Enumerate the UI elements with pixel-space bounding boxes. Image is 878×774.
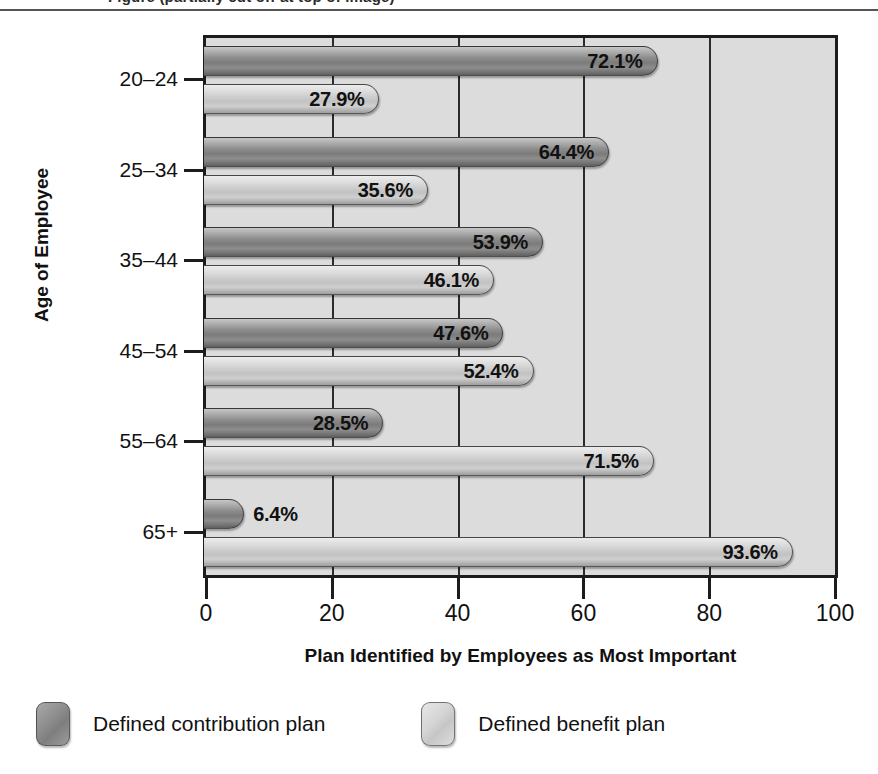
- legend-entry-1[interactable]: Defined contribution plan: [36, 702, 325, 746]
- bar-value-label: 72.1%: [587, 50, 642, 73]
- x-axis-label: Plan Identified by Employees as Most Imp…: [203, 645, 838, 667]
- y-tick-mark: [184, 259, 203, 262]
- y-tick-label-65+: 65+: [142, 520, 178, 544]
- bar-value-label: 64.4%: [539, 140, 594, 163]
- legend-label: Defined benefit plan: [478, 712, 665, 736]
- y-tick-mark: [184, 440, 203, 443]
- bar-4554-series1: 47.6%: [204, 318, 503, 348]
- x-tick-mark-20: [331, 578, 334, 599]
- gridline-20: [332, 38, 334, 575]
- bar-value-label: 47.6%: [433, 321, 488, 344]
- y-tick-mark: [184, 169, 203, 172]
- bar-2024-series1: 72.1%: [204, 46, 658, 76]
- bar-value-label: 71.5%: [584, 450, 639, 473]
- bar-3544-series2: 46.1%: [204, 265, 494, 295]
- bar-value-label: 35.6%: [358, 178, 413, 201]
- bar-value-label: 52.4%: [463, 359, 518, 382]
- y-axis-tick-labels: 20–2425–3435–4445–5455–6465+: [0, 0, 178, 774]
- chart-figure: Figure (partially cut off at top of imag…: [0, 0, 878, 774]
- x-tick-mark-40: [457, 578, 460, 599]
- x-tick-mark-80: [708, 578, 711, 599]
- gridline-80: [709, 38, 711, 575]
- bar-2024-series2: 27.9%: [204, 84, 379, 114]
- x-tick-label-60: 60: [571, 600, 597, 627]
- bar-65+-series2: 93.6%: [204, 537, 793, 567]
- legend-entry-2[interactable]: Defined benefit plan: [421, 702, 665, 746]
- bar-65+-series1: 6.4%: [204, 499, 244, 529]
- x-tick-label-40: 40: [445, 600, 471, 627]
- bar-2534-series1: 64.4%: [204, 137, 609, 167]
- bar-value-label: 6.4%: [253, 502, 297, 525]
- x-tick-label-0: 0: [200, 600, 213, 627]
- legend-label: Defined contribution plan: [93, 712, 325, 736]
- bar-value-label: 46.1%: [424, 269, 479, 292]
- y-tick-label-3544: 35–44: [120, 248, 178, 272]
- y-tick-mark: [184, 531, 203, 534]
- x-tick-mark-60: [582, 578, 585, 599]
- bar-5564-series1: 28.5%: [204, 408, 383, 438]
- bar-5564-series2: 71.5%: [204, 446, 654, 476]
- x-tick-mark-100: [834, 578, 837, 599]
- legend-swatch-icon-dark: [36, 702, 70, 746]
- y-tick-mark: [184, 350, 203, 353]
- x-tick-label-100: 100: [816, 600, 854, 627]
- y-tick-label-5564: 55–64: [120, 429, 178, 453]
- plot-area: 72.1%27.9%64.4%35.6%53.9%46.1%47.6%52.4%…: [203, 35, 838, 578]
- bar-2534-series2: 35.6%: [204, 175, 428, 205]
- bar-value-label: 53.9%: [473, 231, 528, 254]
- bar-value-label: 27.9%: [309, 88, 364, 111]
- x-tick-label-20: 20: [319, 600, 345, 627]
- y-tick-label-4554: 45–54: [120, 339, 178, 363]
- bar-3544-series1: 53.9%: [204, 227, 543, 257]
- gridline-60: [583, 38, 585, 575]
- bar-value-label: 93.6%: [723, 540, 778, 563]
- bar-4554-series2: 52.4%: [204, 356, 534, 386]
- x-tick-label-80: 80: [696, 600, 722, 627]
- y-tick-label-2534: 25–34: [120, 158, 178, 182]
- chart-legend: Defined contribution planDefined benefit…: [36, 702, 665, 746]
- y-tick-label-2024: 20–24: [120, 67, 178, 91]
- x-tick-mark-0: [205, 578, 208, 599]
- bar-value-label: 28.5%: [313, 412, 368, 435]
- legend-swatch-icon-light: [421, 702, 455, 746]
- gridline-40: [458, 38, 460, 575]
- y-tick-mark: [184, 78, 203, 81]
